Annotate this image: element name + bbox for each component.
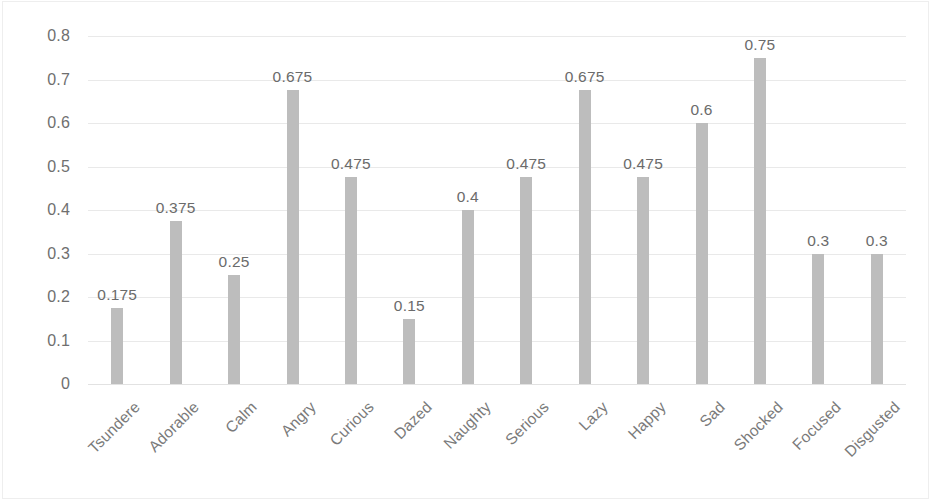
y-axis-tick-label: 0.6 <box>47 114 70 132</box>
bar[interactable] <box>520 177 532 384</box>
x-axis-tick-label: Serious <box>502 398 553 449</box>
bar-group: 0.3 <box>789 36 847 384</box>
bar[interactable] <box>462 210 474 384</box>
bar[interactable] <box>228 275 240 384</box>
y-axis: 0.80.70.60.50.40.30.20.10 <box>0 0 88 501</box>
y-axis-tick-label: 0.1 <box>47 332 70 350</box>
bar-group: 0.475 <box>322 36 380 384</box>
bar[interactable] <box>754 58 766 384</box>
x-axis-tick-label: Angry <box>277 398 319 440</box>
bar-group: 0.375 <box>146 36 204 384</box>
bar-value-label: 0.4 <box>457 188 479 206</box>
bar-value-label: 0.375 <box>156 199 196 217</box>
bar-value-label: 0.675 <box>273 68 313 86</box>
bar-value-label: 0.6 <box>690 101 712 119</box>
bar-group: 0.6 <box>672 36 730 384</box>
bar-value-label: 0.475 <box>623 155 663 173</box>
bar[interactable] <box>812 254 824 385</box>
x-axis-tick-label: Adorable <box>145 398 203 456</box>
bar-value-label: 0.75 <box>744 36 775 54</box>
y-axis-tick-label: 0.3 <box>47 245 70 263</box>
bar-value-label: 0.175 <box>97 286 137 304</box>
bar-group: 0.675 <box>555 36 613 384</box>
x-axis-tick-label: Disgusted <box>841 398 904 461</box>
bar[interactable] <box>111 308 123 384</box>
bar[interactable] <box>696 123 708 384</box>
bar-value-label: 0.3 <box>807 232 829 250</box>
x-axis: TsundereAdorableCalmAngryCuriousDazedNau… <box>88 384 906 501</box>
y-axis-tick-label: 0.7 <box>47 71 70 89</box>
bar-group: 0.4 <box>439 36 497 384</box>
x-axis-tick-label: Tsundere <box>85 398 144 457</box>
y-axis-tick-label: 0.8 <box>47 27 70 45</box>
y-axis-tick-label: 0 <box>61 375 70 393</box>
bar-value-label: 0.675 <box>565 68 605 86</box>
x-axis-tick-label: Sad <box>696 398 729 431</box>
bar-group: 0.15 <box>380 36 438 384</box>
y-axis-tick-label: 0.5 <box>47 158 70 176</box>
bar-group: 0.75 <box>731 36 789 384</box>
x-axis-tick-label: Calm <box>222 398 261 437</box>
bar-group: 0.25 <box>205 36 263 384</box>
x-axis-tick-label: Focused <box>789 398 845 454</box>
bar-value-label: 0.475 <box>331 155 371 173</box>
bar[interactable] <box>287 90 299 384</box>
bar[interactable] <box>579 90 591 384</box>
bar-group: 0.475 <box>497 36 555 384</box>
bar-chart: 0.80.70.60.50.40.30.20.10 0.1750.3750.25… <box>0 0 931 501</box>
bar[interactable] <box>403 319 415 384</box>
bar-value-label: 0.3 <box>866 232 888 250</box>
plot-area: 0.1750.3750.250.6750.4750.150.40.4750.67… <box>88 36 906 384</box>
bar-group: 0.3 <box>848 36 906 384</box>
y-axis-tick-label: 0.4 <box>47 201 70 219</box>
bar-value-label: 0.15 <box>394 297 425 315</box>
bar[interactable] <box>871 254 883 385</box>
bar[interactable] <box>637 177 649 384</box>
bar[interactable] <box>170 221 182 384</box>
x-axis-tick-label: Naughty <box>440 398 495 453</box>
x-axis-tick-label: Curious <box>326 398 377 449</box>
bar-value-label: 0.25 <box>219 253 250 271</box>
bar-group: 0.175 <box>88 36 146 384</box>
bar-group: 0.475 <box>614 36 672 384</box>
x-axis-tick-label: Lazy <box>575 398 611 434</box>
bar-value-label: 0.475 <box>506 155 546 173</box>
x-axis-tick-label: Shocked <box>730 398 786 454</box>
x-axis-tick-label: Happy <box>625 398 670 443</box>
bar-group: 0.675 <box>263 36 321 384</box>
y-axis-tick-label: 0.2 <box>47 288 70 306</box>
bar[interactable] <box>345 177 357 384</box>
x-axis-tick-label: Dazed <box>391 398 436 443</box>
